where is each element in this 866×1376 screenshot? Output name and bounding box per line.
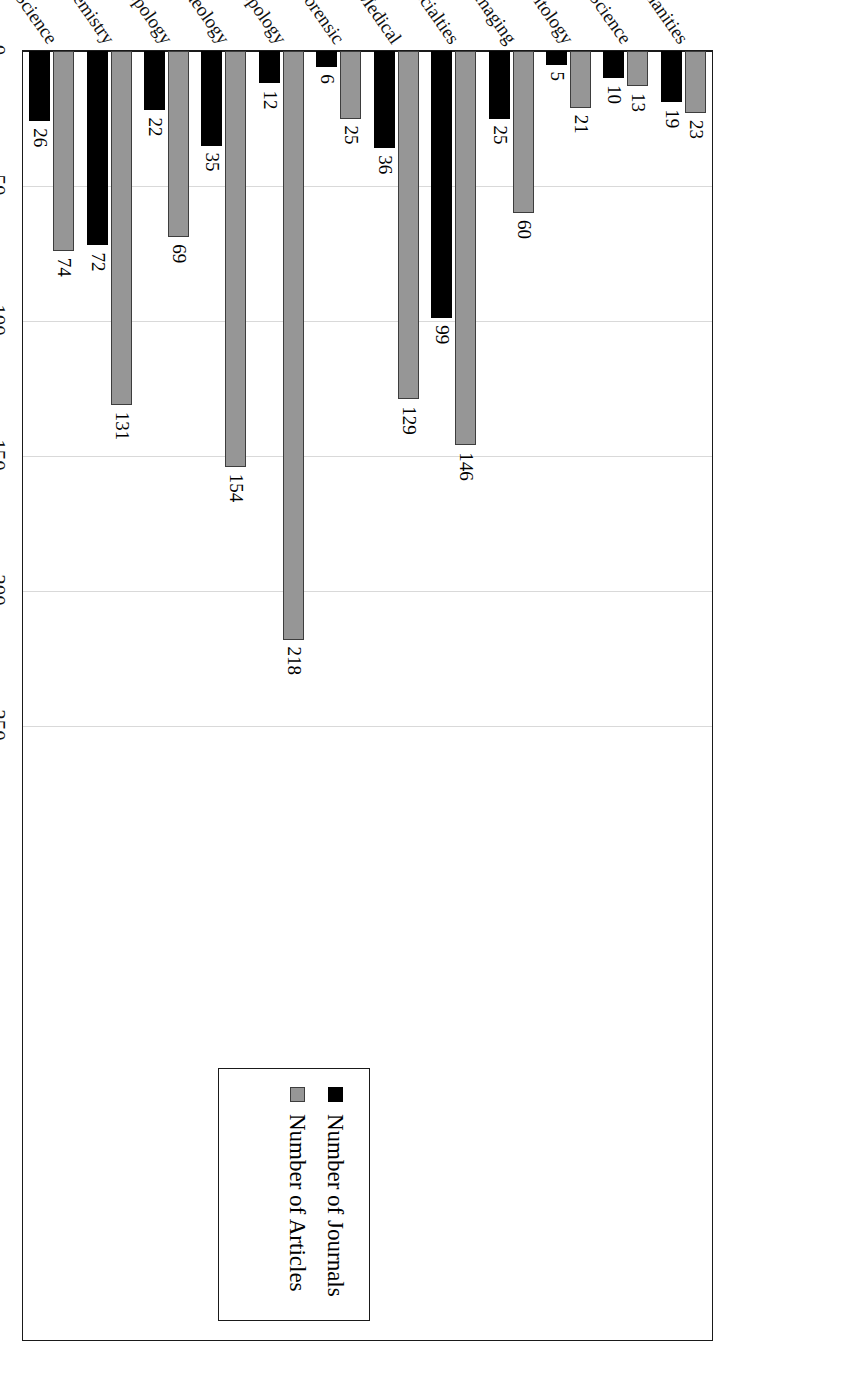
legend-item[interactable]: Number of Journals <box>317 1087 355 1302</box>
legend-label: Number of Journals <box>325 1114 348 1297</box>
bar-value-label: 19 <box>663 109 682 128</box>
bar-journals <box>661 51 682 102</box>
bar-value-label: 131 <box>113 412 132 441</box>
bar-journals <box>374 51 395 148</box>
bar-value-label: 72 <box>89 252 108 271</box>
value-tick-label: 0 <box>0 10 8 90</box>
bar-articles <box>570 51 591 108</box>
value-tick-label: 50 <box>0 145 8 225</box>
bar-value-label: 26 <box>31 128 50 147</box>
bar-journals <box>201 51 222 146</box>
bar-journals <box>489 51 510 119</box>
bar-articles <box>111 51 132 405</box>
bar-value-label: 13 <box>629 93 648 112</box>
bar-articles <box>53 51 74 251</box>
bar-journals <box>316 51 337 67</box>
bar-chart: General ScienceBiology/ChemistryAnthropo… <box>0 0 866 1376</box>
bar-value-label: 99 <box>433 325 452 344</box>
bar-value-label: 60 <box>515 220 534 239</box>
black-square-swatch-icon <box>329 1087 344 1102</box>
bar-journals <box>431 51 452 318</box>
gridline <box>23 456 712 457</box>
chart-legend: Number of JournalsNumber of Articles <box>218 1068 370 1321</box>
bar-value-label: 25 <box>491 126 510 145</box>
bar-value-label: 21 <box>572 115 591 134</box>
legend-item[interactable]: Number of Articles <box>279 1087 317 1302</box>
bar-articles <box>283 51 304 640</box>
category-label: General Science <box>0 0 61 48</box>
bar-journals <box>546 51 567 65</box>
bar-value-label: 10 <box>605 85 624 104</box>
bar-value-label: 5 <box>548 72 567 82</box>
bar-articles <box>627 51 648 86</box>
bar-value-label: 154 <box>227 474 246 503</box>
bar-value-label: 12 <box>261 90 280 109</box>
gridline <box>23 726 712 727</box>
bar-articles <box>398 51 419 399</box>
value-tick-label: 100 <box>0 280 8 360</box>
bar-journals <box>87 51 108 245</box>
bar-value-label: 6 <box>318 74 337 84</box>
bar-value-label: 146 <box>457 452 476 481</box>
bar-articles <box>455 51 476 445</box>
bar-value-label: 25 <box>342 126 361 145</box>
bar-value-label: 129 <box>400 406 419 435</box>
bar-value-label: 35 <box>203 153 222 172</box>
bar-journals <box>144 51 165 110</box>
rotated-figure-wrapper: General ScienceBiology/ChemistryAnthropo… <box>0 0 866 1376</box>
bar-value-label: 218 <box>285 647 304 676</box>
bar-value-label: 69 <box>170 244 189 263</box>
gridline <box>23 591 712 592</box>
bar-journals <box>29 51 50 121</box>
bar-articles <box>168 51 189 237</box>
bar-value-label: 22 <box>146 117 165 136</box>
bar-articles <box>340 51 361 119</box>
legend-label: Number of Articles <box>287 1114 310 1292</box>
value-tick-label: 250 <box>0 685 8 765</box>
bar-articles <box>225 51 246 467</box>
bar-value-label: 36 <box>376 155 395 174</box>
value-tick-label: 150 <box>0 415 8 495</box>
gray-square-swatch-icon <box>291 1087 306 1102</box>
bar-journals <box>259 51 280 83</box>
bar-value-label: 74 <box>55 258 74 277</box>
bar-value-label: 23 <box>687 120 706 139</box>
bar-journals <box>603 51 624 78</box>
bar-articles <box>685 51 706 113</box>
bar-articles <box>513 51 534 213</box>
value-tick-label: 200 <box>0 550 8 630</box>
